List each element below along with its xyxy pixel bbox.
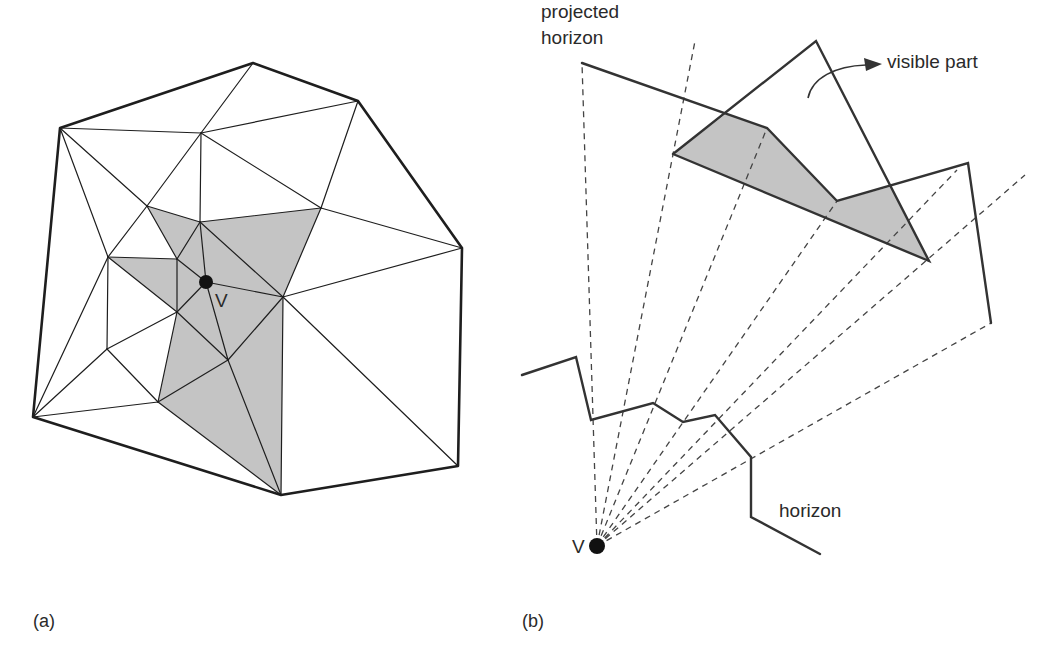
viewpoint-label: V <box>572 536 585 557</box>
viewpoint-dot-icon <box>589 538 605 554</box>
triangulation-edge <box>60 128 201 133</box>
triangulation-edge <box>147 133 201 206</box>
triangulation-edge <box>33 402 158 417</box>
sight-ray <box>597 170 957 546</box>
viewpoint-dot-icon <box>199 275 213 289</box>
triangulation-edge <box>283 248 462 297</box>
triangulation-edge <box>108 206 147 257</box>
triangulation-edge <box>107 257 108 349</box>
triangulation-edge <box>107 312 177 349</box>
triangulation-edge <box>60 128 108 257</box>
projected-horizon-label-line1: projected <box>541 1 619 22</box>
triangulation-edge <box>201 101 358 133</box>
triangulation-edge <box>200 133 201 222</box>
panel-b-horizon: V projected horizon horizon visible part… <box>522 1 1025 631</box>
triangulation-edge <box>107 349 158 402</box>
triangulation-edge <box>321 208 462 248</box>
sight-ray <box>597 41 695 546</box>
triangulation-edge <box>60 128 147 206</box>
sight-ray <box>597 201 837 546</box>
triangulation-edge <box>321 101 358 208</box>
horizon-label: horizon <box>779 500 841 521</box>
sight-rays <box>582 41 1025 546</box>
triangulation-edge <box>283 297 458 466</box>
panel-a-triangulation: V (a) <box>33 63 462 631</box>
triangulation-edge <box>33 257 108 417</box>
visible-part-label: visible part <box>887 51 979 72</box>
triangulation-edge <box>33 349 107 417</box>
sight-ray <box>597 128 767 546</box>
viewpoint-label: V <box>215 290 228 311</box>
arrowhead-icon <box>864 58 882 71</box>
visibility-figure: V (a) V projected horizon horizon visibl… <box>0 0 1044 659</box>
triangulation-edge <box>201 133 321 208</box>
sight-ray <box>582 63 597 546</box>
caption-a: (a) <box>33 611 55 631</box>
triangulation-edge <box>201 63 253 133</box>
sight-ray <box>597 175 1025 546</box>
horizon-line <box>522 357 820 554</box>
projected-horizon-label-line2: horizon <box>541 27 603 48</box>
caption-b: (b) <box>522 611 544 631</box>
